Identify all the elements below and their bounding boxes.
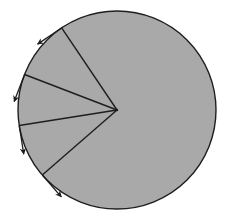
rotating-disk-diagram	[0, 0, 231, 217]
center-point	[116, 109, 118, 111]
